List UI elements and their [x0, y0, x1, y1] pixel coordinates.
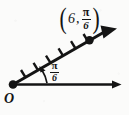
theta-denominator: 6 [82, 20, 90, 31]
tick-5 [71, 41, 76, 48]
angle-numerator: π [50, 60, 58, 71]
plotted-point [85, 36, 93, 44]
tick-4 [59, 48, 64, 55]
origin-dot [9, 80, 18, 89]
polar-axis-arrowhead [112, 80, 122, 88]
open-paren: ( [59, 6, 66, 31]
angle-arc-path [42, 71, 47, 84]
tick-1 [21, 70, 26, 77]
theta-numerator: π [82, 6, 91, 18]
tick-2 [34, 63, 39, 70]
origin-label: O [4, 92, 14, 106]
polar-axis-ray [13, 80, 122, 88]
point-coordinate-label: ( 6 , π 6 ) [58, 6, 101, 31]
angle-measure-label: π 6 [50, 60, 59, 83]
theta-fraction: π 6 [82, 6, 91, 31]
close-paren: ) [92, 6, 99, 31]
terminal-ray-arrowhead [101, 26, 118, 39]
angle-denominator: 6 [51, 73, 58, 83]
radius-value: 6 [68, 12, 76, 26]
polar-coordinate-figure: ( 6 , π 6 ) π 6 O [0, 0, 129, 115]
angle-fraction: π 6 [50, 60, 59, 83]
